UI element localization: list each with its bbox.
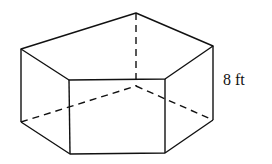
hidden-edge-bottom-left: [21, 86, 136, 122]
pentagonal-prism-diagram: 8 ft: [0, 0, 272, 164]
top-face: [21, 13, 213, 80]
bottom-visible-edges: [21, 120, 213, 154]
height-label: 8 ft: [223, 71, 245, 88]
hidden-edge-bottom-right: [136, 86, 213, 120]
edge-front-left: [69, 80, 70, 154]
